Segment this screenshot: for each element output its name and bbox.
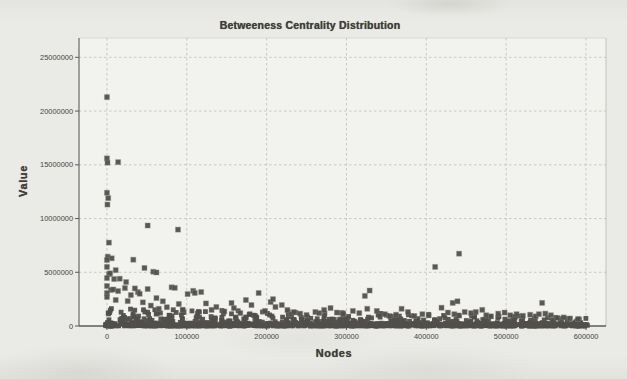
scatter-point — [387, 314, 392, 319]
scatter-point — [318, 322, 323, 327]
scatter-point — [229, 311, 234, 316]
scatter-point — [128, 316, 133, 321]
scatter-point — [548, 313, 553, 318]
scatter-point — [125, 299, 130, 304]
scatter-point — [442, 315, 447, 320]
x-tick-label: 100000 — [174, 332, 199, 341]
scatter-point — [154, 296, 159, 301]
scatter-point — [244, 322, 249, 327]
scatter-point — [378, 315, 383, 320]
scatter-point — [106, 196, 111, 201]
scatter-point — [340, 320, 345, 325]
scatter-point — [473, 310, 478, 315]
scatter-point — [235, 319, 240, 324]
scatter-point — [229, 301, 234, 306]
scatter-point — [243, 297, 248, 302]
scatter-point — [469, 311, 474, 316]
scatter-point — [357, 311, 362, 316]
scatter-point — [263, 322, 268, 327]
scatter-point — [119, 310, 124, 315]
scatter-point — [293, 320, 298, 325]
scatter-point — [180, 317, 185, 322]
scatter-point — [304, 313, 309, 318]
scatter-point — [341, 312, 346, 317]
scatter-point — [145, 318, 150, 323]
scatter-point — [132, 286, 137, 291]
scatter-point — [475, 318, 480, 323]
scatter-point — [314, 319, 319, 324]
scatter-point — [520, 313, 525, 318]
scatter-point — [501, 322, 506, 327]
scatter-point — [238, 311, 243, 316]
x-tick-label: 400000 — [414, 332, 439, 341]
scatter-point — [576, 317, 581, 322]
chart-title: Betweeness Centrality Distribution — [10, 19, 610, 31]
scatter-point — [540, 300, 545, 305]
scatter-point — [109, 256, 114, 261]
scatter-point — [279, 303, 284, 308]
scatter-point — [368, 322, 373, 327]
scatter-point — [528, 312, 533, 317]
scatter-point — [219, 315, 224, 320]
scatter-point — [104, 264, 109, 269]
scatter-point — [104, 190, 109, 195]
y-axis-title-text: Value — [17, 151, 29, 211]
scatter-point — [457, 313, 462, 318]
scatter-point — [269, 314, 274, 319]
scatter-point — [382, 312, 387, 317]
scatter-point — [328, 306, 333, 311]
scatter-point — [125, 322, 130, 327]
scatter-point — [104, 95, 109, 100]
scatter-point — [113, 268, 118, 273]
scatter-point — [180, 307, 185, 312]
scatter-point — [363, 319, 368, 324]
scatter-point — [214, 304, 219, 309]
scatter-point — [375, 321, 380, 326]
scatter-point — [445, 310, 450, 315]
scatter-point — [480, 307, 485, 312]
scatter-point — [203, 309, 208, 314]
plot-area — [79, 38, 606, 326]
scatter-point — [385, 322, 390, 327]
scatter-point — [284, 317, 289, 322]
scatter-point — [484, 313, 489, 318]
scatter-point — [176, 227, 181, 232]
scatter-point — [358, 317, 363, 322]
scatter-point — [405, 310, 410, 315]
scatter-point — [131, 322, 136, 327]
scatter-point — [351, 320, 356, 325]
scatter-point — [118, 320, 123, 325]
scatter-point — [212, 319, 217, 324]
y-tick-label: 5000000 — [44, 268, 73, 277]
scatter-point — [172, 285, 177, 290]
y-tick-label: 15000000 — [40, 160, 73, 169]
scatter-point — [224, 320, 229, 325]
x-tick-label: 0 — [105, 332, 109, 341]
scatter-point — [116, 289, 121, 294]
scatter-point — [263, 308, 268, 313]
scatter-point — [452, 322, 457, 327]
scatter-point — [393, 312, 398, 317]
scatter-point — [301, 320, 306, 325]
scatter-point — [502, 310, 507, 315]
scatter-plot: 0500000010000000150000002000000025000000… — [0, 0, 627, 379]
scatter-point — [563, 322, 568, 327]
scatter-point — [203, 301, 208, 306]
scatter-point — [145, 310, 150, 315]
scatter-point — [168, 323, 173, 328]
scatter-point — [142, 265, 147, 270]
scatter-point — [150, 318, 155, 323]
scatter-point — [439, 322, 444, 327]
scatter-point — [131, 257, 136, 262]
scatter-point — [412, 314, 417, 319]
scatter-point — [298, 311, 303, 316]
scatter-point — [568, 316, 573, 321]
scatter-point — [345, 317, 350, 322]
scatter-point — [583, 316, 588, 321]
scatter-point — [190, 309, 195, 314]
scatter-point — [124, 280, 129, 285]
scatter-point — [111, 287, 116, 292]
scatter-point — [154, 270, 159, 275]
scatter-point — [540, 320, 545, 325]
scatter-point — [231, 306, 236, 311]
